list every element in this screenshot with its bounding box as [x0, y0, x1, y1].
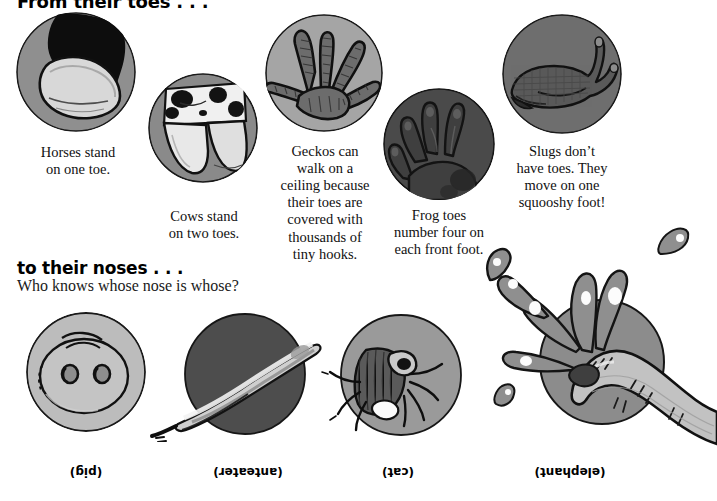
illustration-cat-nose — [320, 312, 470, 442]
illustration-anteater-snout — [148, 312, 338, 442]
caption-frog: Frog toes number four on each front foot… — [379, 207, 499, 258]
caption-line: Horses stand — [18, 144, 138, 161]
horse-hoof-icon — [16, 12, 136, 132]
caption-line: their toes are — [262, 194, 388, 211]
illustration-gecko-foot — [265, 14, 383, 132]
caption-line: number four on — [379, 224, 499, 241]
illustration-horse-hoof — [16, 12, 136, 132]
caption-gecko: Geckos can walk on a ceiling because the… — [262, 143, 388, 263]
book-page: From their toes . . . Horses stand on on… — [0, 0, 717, 501]
gecko-foot-icon — [265, 14, 383, 132]
caption-line: move on one — [500, 177, 624, 194]
illustration-elephant-trunk — [484, 222, 717, 454]
caption-horse: Horses stand on one toe. — [18, 144, 138, 178]
answer-label-cat: (cat) — [348, 465, 448, 479]
caption-line: Slugs don’t — [500, 143, 624, 160]
caption-line: Frog toes — [379, 207, 499, 224]
answer-label-pig: (pig) — [26, 465, 146, 479]
illustration-frog-foot — [383, 88, 495, 200]
frog-foot-icon — [383, 88, 495, 200]
section-heading-toes: From their toes . . . — [17, 0, 208, 12]
caption-line: have toes. They — [500, 160, 624, 177]
section-heading-noses: to their noses . . . — [17, 258, 183, 278]
caption-cow: Cows stand on two toes. — [149, 208, 259, 242]
caption-line: squooshy foot! — [500, 194, 624, 211]
answer-label-elephant: (elephant) — [500, 465, 640, 479]
caption-slug: Slugs don’t have toes. They move on one … — [500, 143, 624, 211]
caption-line: on one toe. — [18, 161, 138, 178]
cow-hoof-icon — [148, 73, 258, 183]
caption-line: each front foot. — [379, 241, 499, 258]
pig-snout-icon — [26, 312, 146, 432]
elephant-trunk-icon — [484, 222, 717, 454]
caption-line: ceiling because — [262, 177, 388, 194]
caption-line: tiny hooks. — [262, 246, 388, 263]
caption-line: walk on a — [262, 160, 388, 177]
slug-icon — [502, 14, 622, 134]
anteater-snout-icon — [148, 312, 338, 442]
illustration-slug — [502, 14, 622, 134]
answer-label-anteater: (anteater) — [188, 465, 308, 479]
caption-line: covered with — [262, 211, 388, 228]
caption-line: Geckos can — [262, 143, 388, 160]
caption-line: Cows stand — [149, 208, 259, 225]
caption-line: thousands of — [262, 229, 388, 246]
subheading-noses: Who knows whose nose is whose? — [17, 277, 239, 295]
cat-nose-icon — [320, 312, 470, 442]
illustration-cow-hoof — [148, 73, 258, 183]
caption-line: on two toes. — [149, 225, 259, 242]
illustration-pig-snout — [26, 312, 146, 432]
